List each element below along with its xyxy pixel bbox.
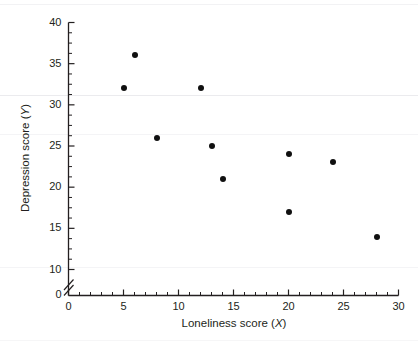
y-tick-label: 40 (40, 16, 62, 28)
x-tick-label: 5 (113, 300, 135, 312)
x-axis-label-paren: ) (283, 317, 287, 329)
x-axis-label: Loneliness score (X) (69, 317, 399, 329)
data-point (198, 85, 204, 91)
y-axis-label-paren: ) (19, 104, 31, 108)
data-point (154, 135, 160, 141)
x-tick-label: 25 (333, 300, 355, 312)
data-point (132, 52, 138, 58)
data-point (121, 85, 127, 91)
data-point (220, 176, 226, 182)
x-tick-label: 10 (168, 300, 190, 312)
y-origin-tick-label: 0 (40, 288, 62, 300)
y-tick-label: 15 (40, 221, 62, 233)
y-tick-label: 35 (40, 57, 62, 69)
y-tick-label: 30 (40, 98, 62, 110)
x-axis-label-variable: X (275, 317, 283, 329)
data-point (209, 143, 215, 149)
x-tick-label: 0 (58, 300, 80, 312)
data-point (286, 151, 292, 157)
axes-svg (0, 0, 418, 348)
data-point (286, 209, 292, 215)
x-tick-label: 20 (278, 300, 300, 312)
y-axis-label-variable: Y (19, 108, 31, 116)
plot-area: Depression score (Y) Loneliness score (X… (0, 0, 418, 348)
y-axis-label: Depression score (Y) (19, 73, 31, 243)
y-tick-label: 25 (40, 139, 62, 151)
data-point (374, 234, 380, 240)
y-tick-label: 10 (40, 263, 62, 275)
y-axis-label-text: Depression score ( (19, 116, 31, 213)
x-tick-label: 30 (388, 300, 410, 312)
scatter-plot-figure: Depression score (Y) Loneliness score (X… (0, 0, 418, 348)
x-tick-label: 15 (223, 300, 245, 312)
x-axis-label-text: Loneliness score ( (182, 317, 275, 329)
y-tick-label: 20 (40, 180, 62, 192)
